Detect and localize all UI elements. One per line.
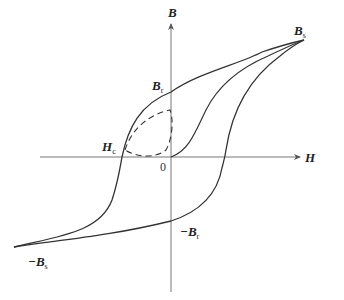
h-axis-label: H bbox=[305, 151, 315, 164]
saturation-neg-label: −Bs bbox=[28, 255, 48, 271]
remanence-pos-label: Br bbox=[152, 79, 163, 95]
remanence-neg-label: −Br bbox=[180, 225, 199, 241]
origin-label: 0 bbox=[160, 161, 166, 173]
major-loop-upper-branch bbox=[14, 40, 304, 247]
b-axis-label: B bbox=[168, 6, 177, 19]
saturation-pos-label: Bs bbox=[294, 24, 306, 40]
minor-loop bbox=[125, 110, 172, 156]
coercivity-label: Hc bbox=[102, 140, 116, 156]
major-loop-lower-branch bbox=[14, 40, 304, 247]
initial-magnetization-curve bbox=[171, 40, 304, 157]
hysteresis-diagram: B H 0 Bs −Bs Br −Br Hc bbox=[0, 0, 344, 300]
diagram-canvas bbox=[0, 0, 344, 300]
